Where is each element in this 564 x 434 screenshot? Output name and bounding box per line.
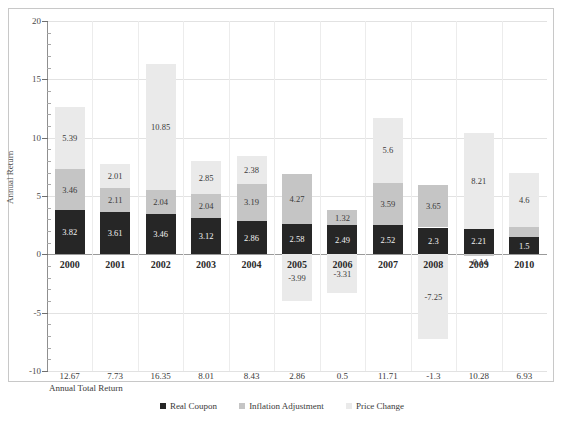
bar-value-label: 3.82 <box>62 227 77 237</box>
bar-value-label: 3.59 <box>380 199 395 209</box>
bar-value-label: 2.3 <box>428 236 439 246</box>
bar-group[interactable]: 2.523.595.6 <box>365 21 410 371</box>
bar-group[interactable]: 1.50.834.6 <box>502 21 547 371</box>
y-major-tick <box>42 79 48 80</box>
bar-value-label: 2.21 <box>471 236 486 246</box>
x-axis-year-2010: 2010 <box>496 259 552 270</box>
y-minor-tick <box>47 219 51 220</box>
y-minor-tick <box>47 231 51 232</box>
y-tick-label: 20 <box>15 16 41 26</box>
y-minor-tick <box>47 161 51 162</box>
y-minor-tick <box>47 44 51 45</box>
bar-value-label: 2.52 <box>380 235 395 245</box>
legend-item[interactable]: Real Coupon <box>160 401 217 411</box>
legend-label: Real Coupon <box>170 401 217 411</box>
y-major-tick <box>42 313 48 314</box>
y-tick-label: 0 <box>15 249 41 259</box>
y-minor-tick <box>47 336 51 337</box>
bar-value-label: 10.85 <box>151 122 170 132</box>
y-minor-tick <box>47 126 51 127</box>
y-tick-label: -10 <box>15 366 41 376</box>
bar-value-label: 2.49 <box>335 235 350 245</box>
y-minor-tick <box>47 91 51 92</box>
y-tick-label: -5 <box>15 308 41 318</box>
y-minor-tick <box>47 114 51 115</box>
legend-swatch-icon <box>160 403 166 409</box>
y-minor-tick <box>47 56 51 57</box>
bar-value-label: 2.04 <box>199 201 214 211</box>
legend-label: Price Change <box>356 401 404 411</box>
y-major-tick <box>42 196 48 197</box>
bar-group[interactable]: 2.21-0.148.21 <box>456 21 501 371</box>
y-minor-tick <box>47 348 51 349</box>
bar-value-label: 3.46 <box>62 185 77 195</box>
bar-group[interactable]: 2.863.192.38 <box>229 21 274 371</box>
bar-value-label: 2.38 <box>244 165 259 175</box>
bar-value-label: -3.99 <box>288 273 306 283</box>
y-major-tick <box>42 21 48 22</box>
legend-item[interactable]: Price Change <box>346 401 404 411</box>
bar-group[interactable]: 2.584.27-3.99 <box>274 21 319 371</box>
bar-value-label: 3.19 <box>244 197 259 207</box>
legend-swatch-icon <box>346 403 352 409</box>
bar-value-label: 3.46 <box>153 229 168 239</box>
y-tick-label: 5 <box>15 191 41 201</box>
y-minor-tick <box>47 149 51 150</box>
y-minor-tick <box>47 359 51 360</box>
y-major-tick <box>42 138 48 139</box>
bar-group[interactable]: 3.462.0410.85 <box>138 21 183 371</box>
y-minor-tick <box>47 184 51 185</box>
bar-value-label: 4.27 <box>290 194 305 204</box>
bar-value-label: 5.39 <box>62 133 77 143</box>
y-tick-label: 15 <box>15 74 41 84</box>
y-minor-tick <box>47 103 51 104</box>
y-minor-tick <box>47 324 51 325</box>
bar-group[interactable]: 3.122.042.85 <box>183 21 228 371</box>
y-minor-tick <box>47 301 51 302</box>
bar-value-label: 2.85 <box>199 173 214 183</box>
bar-value-label: 3.12 <box>199 231 214 241</box>
y-minor-tick <box>47 173 51 174</box>
bar-value-label: 2.58 <box>290 234 305 244</box>
bar-segment-inflation-adjustment[interactable] <box>509 227 539 237</box>
y-major-tick <box>42 254 48 255</box>
bar-group[interactable]: 2.491.32-3.31 <box>320 21 365 371</box>
bar-value-label: 2.04 <box>153 197 168 207</box>
y-minor-tick <box>47 243 51 244</box>
bar-group[interactable]: 3.823.465.39 <box>47 21 92 371</box>
bar-value-label: -7.25 <box>424 292 442 302</box>
y-minor-tick <box>47 68 51 69</box>
bar-value-label: 3.65 <box>426 201 441 211</box>
bar-value-label: 2.11 <box>108 195 123 205</box>
chart-legend: Real CouponInflation AdjustmentPrice Cha… <box>9 401 555 411</box>
chart-frame: Annual Return 3.823.465.393.612.112.013.… <box>8 8 554 382</box>
bar-value-label: 2.01 <box>108 171 123 181</box>
y-minor-tick <box>47 289 51 290</box>
bar-value-label: 2.86 <box>244 233 259 243</box>
plot-area: 3.823.465.393.612.112.013.462.0410.853.1… <box>47 21 547 371</box>
annual-total-return-value: 6.93 <box>496 371 552 381</box>
bar-group[interactable]: 2.33.65-7.25 <box>411 21 456 371</box>
legend-swatch-icon <box>239 403 245 409</box>
y-minor-tick <box>47 208 51 209</box>
bar-value-label: 5.6 <box>383 145 394 155</box>
y-axis-title: Annual Return <box>5 151 15 204</box>
legend-label: Inflation Adjustment <box>249 401 324 411</box>
y-minor-tick <box>47 278 51 279</box>
bar-value-label: 8.21 <box>471 176 486 186</box>
bar-segment-inflation-adjustment[interactable] <box>464 254 494 256</box>
bar-value-label: 3.61 <box>108 228 123 238</box>
y-minor-tick <box>47 33 51 34</box>
annual-total-return-caption: Annual Total Return <box>49 383 123 393</box>
bar-value-label: 4.6 <box>519 195 530 205</box>
y-tick-label: 10 <box>15 133 41 143</box>
bar-group[interactable]: 3.612.112.01 <box>92 21 137 371</box>
bar-value-label: 1.5 <box>519 241 530 251</box>
bar-value-label: 1.32 <box>335 213 350 223</box>
legend-item[interactable]: Inflation Adjustment <box>239 401 324 411</box>
